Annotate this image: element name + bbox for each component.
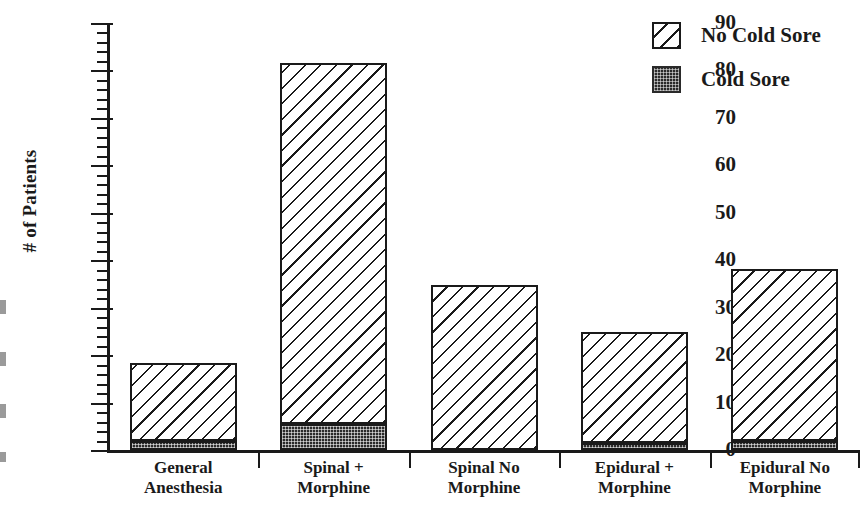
category-label-line-1: General: [154, 458, 213, 477]
bar-2: [280, 63, 387, 450]
scan-edge-artifact: [0, 300, 6, 314]
category-label-line-1: Epidural No: [740, 458, 830, 477]
y-tick-minor: [97, 51, 108, 53]
bar-segment-cold-sore: [731, 441, 838, 450]
no-cold-sore-swatch-icon: [652, 22, 681, 49]
bar-1: [130, 363, 237, 450]
y-tick-major: [91, 450, 113, 452]
bar-segment-no-cold-sore: [280, 63, 387, 424]
y-tick-label: 30: [676, 297, 736, 318]
y-tick-minor: [97, 270, 108, 272]
bar-segment-cold-sore: [130, 441, 237, 450]
category-label-5: Epidural NoMorphine: [710, 458, 860, 498]
cold-sore-swatch-icon: [652, 66, 681, 93]
y-tick-minor: [97, 374, 108, 376]
y-tick-minor: [97, 108, 108, 110]
y-tick-minor: [97, 99, 108, 101]
y-axis-title: # of Patients: [19, 101, 41, 301]
y-tick-minor: [97, 203, 108, 205]
y-tick-major: [91, 355, 113, 357]
category-label-line-2: Morphine: [559, 478, 709, 498]
legend-label-no-cold-sore: No Cold Sore: [701, 23, 821, 48]
y-tick-minor: [97, 336, 108, 338]
y-tick-minor: [97, 251, 108, 253]
y-tick-minor: [97, 80, 108, 82]
y-tick-minor: [97, 232, 108, 234]
bar-segment-no-cold-sore: [581, 332, 688, 443]
legend-label-cold-sore: Cold Sore: [701, 67, 790, 92]
y-tick-minor: [97, 146, 108, 148]
category-label-line-1: Spinal No: [448, 458, 519, 477]
y-tick-major: [91, 118, 113, 120]
y-tick-minor: [97, 184, 108, 186]
category-label-line-2: Morphine: [409, 478, 559, 498]
category-label-line-2: Anesthesia: [108, 478, 258, 498]
y-tick-minor: [97, 42, 108, 44]
scan-edge-artifact: [0, 404, 6, 418]
y-tick-major: [91, 213, 113, 215]
category-label-2: Spinal +Morphine: [258, 458, 408, 498]
scan-edge-artifact: [0, 452, 6, 462]
bar-segment-no-cold-sore: [731, 269, 838, 441]
y-tick-minor: [97, 317, 108, 319]
category-label-1: GeneralAnesthesia: [108, 458, 258, 498]
y-tick-minor: [97, 175, 108, 177]
y-tick-minor: [97, 127, 108, 129]
y-tick-label: 70: [676, 107, 736, 128]
chart-legend: No Cold Sore Cold Sore: [652, 22, 821, 110]
y-tick-minor: [97, 365, 108, 367]
category-label-3: Spinal NoMorphine: [409, 458, 559, 498]
y-tick-minor: [97, 298, 108, 300]
y-tick-major: [91, 308, 113, 310]
category-label-line-2: Morphine: [258, 478, 408, 498]
category-label-line-1: Spinal +: [303, 458, 363, 477]
y-tick-minor: [97, 384, 108, 386]
y-tick-minor: [97, 327, 108, 329]
category-label-4: Epidural +Morphine: [559, 458, 709, 498]
bar-segment-no-cold-sore: [130, 363, 237, 441]
y-tick-major: [91, 403, 113, 405]
y-tick-minor: [97, 346, 108, 348]
bar-chart: # of Patients 0102030405060708090 Genera…: [0, 0, 865, 520]
legend-item-no-cold-sore: No Cold Sore: [652, 22, 821, 49]
bar-segment-no-cold-sore: [431, 285, 538, 450]
y-tick-minor: [97, 412, 108, 414]
y-tick-minor: [97, 89, 108, 91]
y-tick-minor: [97, 61, 108, 63]
bar-segment-cold-sore: [581, 443, 688, 450]
x-axis-line: [107, 450, 860, 453]
y-tick-minor: [97, 137, 108, 139]
y-tick-minor: [97, 289, 108, 291]
scan-edge-artifact: [0, 352, 6, 366]
y-tick-minor: [97, 431, 108, 433]
y-tick-label: 60: [676, 154, 736, 175]
y-tick-minor: [97, 241, 108, 243]
category-label-line-2: Morphine: [710, 478, 860, 498]
y-tick-minor: [97, 441, 108, 443]
y-tick-minor: [97, 156, 108, 158]
y-tick-minor: [97, 32, 108, 34]
y-tick-minor: [97, 194, 108, 196]
y-tick-minor: [97, 422, 108, 424]
bar-4: [581, 332, 688, 450]
bar-segment-cold-sore: [280, 424, 387, 450]
y-tick-major: [91, 70, 113, 72]
legend-item-cold-sore: Cold Sore: [652, 66, 821, 93]
y-tick-minor: [97, 222, 108, 224]
y-tick-major: [91, 23, 113, 25]
y-tick-minor: [97, 393, 108, 395]
y-tick-minor: [97, 279, 108, 281]
bar-3: [431, 285, 538, 450]
y-tick-major: [91, 260, 113, 262]
y-tick-label: 50: [676, 202, 736, 223]
bar-5: [731, 269, 838, 450]
y-tick-label: 40: [676, 249, 736, 270]
category-label-line-1: Epidural +: [595, 458, 674, 477]
y-tick-major: [91, 165, 113, 167]
